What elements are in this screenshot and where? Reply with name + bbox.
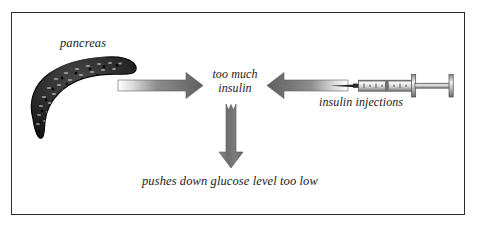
syringe-icon	[330, 75, 453, 98]
arrow-down-icon	[219, 104, 243, 168]
label-too-much-insulin: too muchinsulin	[197, 68, 273, 96]
diagram-artwork	[0, 0, 479, 229]
label-pancreas: pancreas	[60, 36, 106, 50]
label-outcome: pushes down glucose level too low	[142, 174, 318, 188]
pancreas-organ-icon	[28, 50, 140, 150]
label-center-line2: insulin	[218, 81, 251, 95]
diagram-canvas: pancreas too muchinsulin insulin injecti…	[0, 0, 479, 229]
label-insulin-injections: insulin injections	[319, 96, 403, 110]
label-center-line1: too much	[212, 67, 257, 81]
arrow-right-icon	[118, 73, 203, 99]
